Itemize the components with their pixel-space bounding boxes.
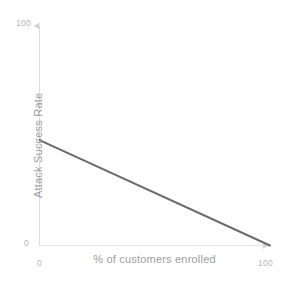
y-axis-tick-label-0: 0 [24, 238, 29, 248]
y-axis-tick-label-100: 100 [16, 18, 31, 28]
x-axis-title: % of customers enrolled [39, 253, 270, 265]
data-line-attack-success-rate [40, 140, 271, 245]
y-axis-title: Attack Success Rate [32, 38, 50, 198]
chart-container: 100 0 0 100 % of customers enrolled Atta… [0, 0, 290, 283]
